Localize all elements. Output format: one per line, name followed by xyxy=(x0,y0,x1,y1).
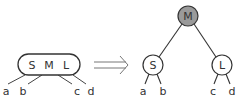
child-a: a xyxy=(3,85,10,98)
leaf-a: a xyxy=(140,85,147,98)
child-c: c xyxy=(74,85,80,98)
edge-s-b xyxy=(157,74,161,84)
edge-d xyxy=(73,75,86,84)
four-node: S M L a b c d xyxy=(3,54,95,98)
edge-a xyxy=(8,75,25,84)
edge-m-l xyxy=(194,24,216,57)
binary-tree: M S L a b c d xyxy=(140,6,236,98)
edge-l-c xyxy=(214,74,218,84)
node-l-label: L xyxy=(219,59,226,72)
key-s: S xyxy=(29,59,36,72)
key-m: M xyxy=(44,59,54,72)
child-d: d xyxy=(88,85,95,98)
child-b: b xyxy=(20,85,27,98)
root-label: M xyxy=(183,10,193,23)
leaf-c: c xyxy=(210,85,216,98)
split-4-node-diagram: S M L a b c d M S L a b c d xyxy=(0,0,245,101)
key-l: L xyxy=(63,59,70,72)
double-arrow-icon xyxy=(94,56,128,74)
leaf-b: b xyxy=(160,85,167,98)
edge-b xyxy=(28,75,42,84)
edge-m-s xyxy=(159,24,182,57)
edge-s-a xyxy=(145,74,149,84)
edge-l-d xyxy=(226,74,230,84)
edge-c xyxy=(58,75,72,84)
leaf-d: d xyxy=(229,85,236,98)
node-s-label: S xyxy=(150,59,157,72)
